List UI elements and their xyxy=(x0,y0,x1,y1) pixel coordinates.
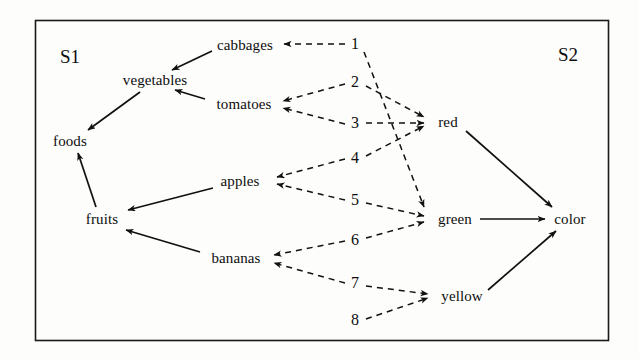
edge-n6-to-green xyxy=(366,222,424,238)
node-green: green xyxy=(438,211,472,228)
instance-n1: 1 xyxy=(351,35,359,53)
region-label-s2: S2 xyxy=(558,44,578,66)
node-foods: foods xyxy=(53,133,87,150)
region-label-s1: S1 xyxy=(60,46,80,68)
edge-n3-to-tomatoes xyxy=(283,108,345,124)
edge-n2-to-red xyxy=(366,86,424,117)
edge-n8-to-yellow xyxy=(366,298,428,319)
node-vegetables: vegetables xyxy=(123,72,187,89)
edge-n4-to-red xyxy=(366,126,424,156)
edge-apples-to-fruits xyxy=(128,188,213,210)
edge-n2-to-tomatoes xyxy=(283,84,345,101)
node-color: color xyxy=(554,211,585,228)
edge-n6-to-bananas xyxy=(274,241,345,255)
edge-fruits-to-foods xyxy=(78,153,96,207)
edge-n1-to-green xyxy=(364,52,424,207)
instance-n7: 7 xyxy=(351,274,359,292)
node-red: red xyxy=(438,114,457,131)
edge-n5-to-apples xyxy=(277,184,345,200)
node-fruits: fruits xyxy=(86,211,118,228)
edge-n7-to-yellow xyxy=(366,286,428,294)
edge-red-to-color xyxy=(466,131,552,207)
edge-n7-to-bananas xyxy=(274,263,345,283)
edge-yellow-to-color xyxy=(488,231,556,290)
edge-vegetables-to-foods xyxy=(88,92,140,130)
instance-n6: 6 xyxy=(351,231,359,249)
figure-canvas: S1 S2 foodsvegetablesfruitscabbagestomat… xyxy=(0,0,639,359)
edge-bananas-to-fruits xyxy=(126,230,200,252)
edge-n4-to-apples xyxy=(277,159,345,177)
edge-tomatoes-to-vegetables xyxy=(175,90,205,99)
diagram-svg xyxy=(0,0,639,359)
edge-cabbages-to-vegetables xyxy=(172,51,212,70)
edge-n5-to-green xyxy=(366,203,424,216)
instance-n8: 8 xyxy=(351,311,359,329)
instance-n3: 3 xyxy=(351,114,359,132)
node-cabbages: cabbages xyxy=(217,37,273,54)
node-yellow: yellow xyxy=(441,288,482,305)
node-tomatoes: tomatoes xyxy=(217,96,272,113)
instance-n2: 2 xyxy=(351,73,359,91)
node-apples: apples xyxy=(221,173,260,190)
node-bananas: bananas xyxy=(211,250,260,267)
instance-n5: 5 xyxy=(351,191,359,209)
instance-right-edges-group xyxy=(364,52,428,294)
instance-n4: 4 xyxy=(351,149,359,167)
